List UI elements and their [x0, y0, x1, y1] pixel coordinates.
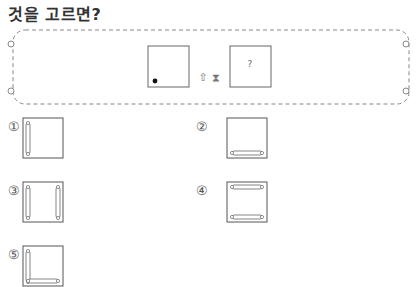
hinge-bar [232, 151, 262, 155]
bar-end-icon [260, 151, 263, 154]
bar-end-icon [26, 216, 29, 219]
punch-hole-icon [8, 41, 14, 47]
bar-end-icon [56, 185, 59, 188]
hinge-bar [26, 187, 30, 218]
bar-end-icon [26, 279, 29, 282]
option-3[interactable]: ③ [8, 182, 63, 222]
punch-hole-icon [8, 88, 14, 94]
bar-end-icon [26, 249, 29, 252]
problem-figure: ⇧ ⧗ ? ①②③④⑤ [0, 0, 420, 287]
bar-end-icon [260, 185, 263, 188]
option-number: ② [196, 119, 208, 134]
problem-panel [13, 30, 409, 104]
hinge-bar [56, 187, 60, 218]
hourglass-icon: ⧗ [212, 71, 220, 84]
hinge-bar [232, 215, 262, 219]
dot-mark [153, 79, 158, 84]
bar-end-icon [230, 185, 233, 188]
up-arrow-fold-icon: ⇧ [198, 71, 207, 84]
option-2[interactable]: ② [196, 118, 267, 158]
option-1[interactable]: ① [8, 118, 63, 158]
option-5[interactable]: ⑤ [8, 246, 63, 286]
bar-end-icon [260, 215, 263, 218]
bar-end-icon [230, 215, 233, 218]
bar-end-icon [26, 152, 29, 155]
hinge-bar [232, 185, 262, 189]
bar-end-icon [230, 151, 233, 154]
hinge-bar [26, 123, 30, 154]
option-number: ⑤ [8, 247, 20, 262]
bar-end-icon [56, 216, 59, 219]
bar-end-icon [26, 185, 29, 188]
option-number: ① [8, 119, 20, 134]
bar-end-icon [56, 279, 59, 282]
unknown-label: ? [248, 59, 253, 69]
bar-end-icon [26, 121, 29, 124]
option-4[interactable]: ④ [196, 182, 267, 222]
hinge-bar [26, 251, 30, 282]
option-number: ④ [196, 183, 208, 198]
punch-hole-icon [403, 88, 409, 94]
punch-hole-icon [403, 41, 409, 47]
option-number: ③ [8, 183, 20, 198]
hinge-bar [28, 279, 58, 283]
